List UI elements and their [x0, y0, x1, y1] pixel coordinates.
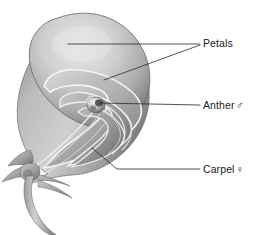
label-petals: Petals: [203, 37, 233, 49]
flower-body-group: [2, 13, 150, 235]
label-carpel-text: Carpel: [203, 163, 235, 175]
label-carpel: Carpel♀: [203, 163, 244, 175]
sepal-lower-right: [38, 180, 72, 198]
label-anther: Anther♂: [203, 99, 244, 111]
flower-cross-section-illustration: [0, 0, 263, 235]
label-petals-text: Petals: [203, 37, 233, 49]
label-anther-text: Anther: [203, 99, 235, 111]
female-symbol: ♀: [235, 163, 244, 175]
male-symbol: ♂: [235, 99, 244, 111]
figure-canvas: Petals Anther♂ Carpel♀: [0, 0, 263, 235]
